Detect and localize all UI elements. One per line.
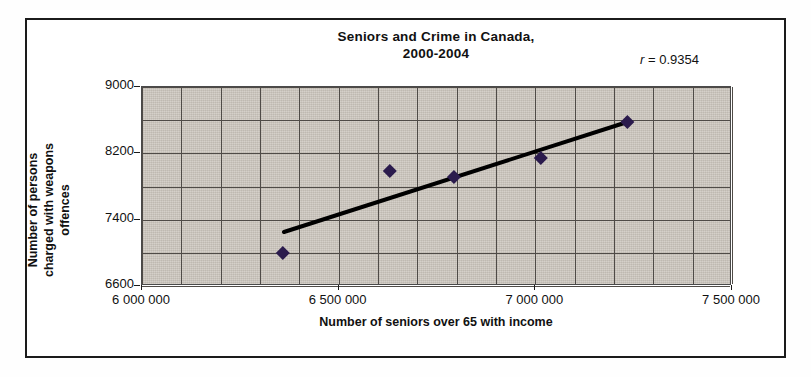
x-axis-tick-mark — [731, 285, 732, 290]
data-point-marker — [276, 246, 290, 260]
y-axis-tick-label: 7400 — [74, 210, 134, 225]
correlation-equals: = — [644, 52, 659, 67]
correlation-annotation: r = 0.9354 — [640, 52, 770, 67]
x-axis-tick-label: 6 000 000 — [81, 292, 201, 307]
correlation-value: 0.9354 — [659, 52, 699, 67]
y-axis-tick-label: 8200 — [74, 143, 134, 158]
y-axis-title-line-2: charged with weapons — [41, 95, 57, 325]
y-axis-tick-label: 9000 — [74, 77, 134, 92]
data-point-marker — [620, 115, 634, 129]
x-axis-tick-label: 7 500 000 — [671, 292, 791, 307]
y-axis-ticks: 6600740082009000 — [70, 0, 134, 377]
chart-figure: Seniors and Crime in Canada, 2000-2004 r… — [0, 0, 811, 377]
x-axis-tick-mark — [338, 285, 339, 290]
x-axis-tick-label: 7 000 000 — [474, 292, 594, 307]
y-axis-tick-label: 6600 — [74, 276, 134, 291]
x-axis-tick-label: 6 500 000 — [278, 292, 398, 307]
chart-title-line-1: Seniors and Crime in Canada, — [141, 28, 731, 45]
x-axis-tick-mark — [141, 285, 142, 290]
plot-area — [141, 86, 731, 285]
data-point-marker — [383, 164, 397, 178]
data-series — [142, 87, 732, 286]
data-point-marker — [447, 170, 461, 184]
x-axis-title: Number of seniors over 65 with income — [141, 315, 731, 329]
y-axis-title-line-3: offences — [57, 95, 73, 325]
y-axis-tick-mark — [134, 86, 140, 87]
y-axis-title-line-1: Number of persons — [25, 95, 41, 325]
grid-line-vertical — [732, 87, 733, 284]
x-axis-tick-mark — [534, 285, 535, 290]
y-axis-tick-mark — [134, 285, 140, 286]
y-axis-tick-mark — [134, 219, 140, 220]
y-axis-title: Number of persons charged with weapons o… — [25, 95, 73, 325]
grid-line-horizontal — [142, 286, 730, 287]
y-axis-tick-mark — [134, 152, 140, 153]
